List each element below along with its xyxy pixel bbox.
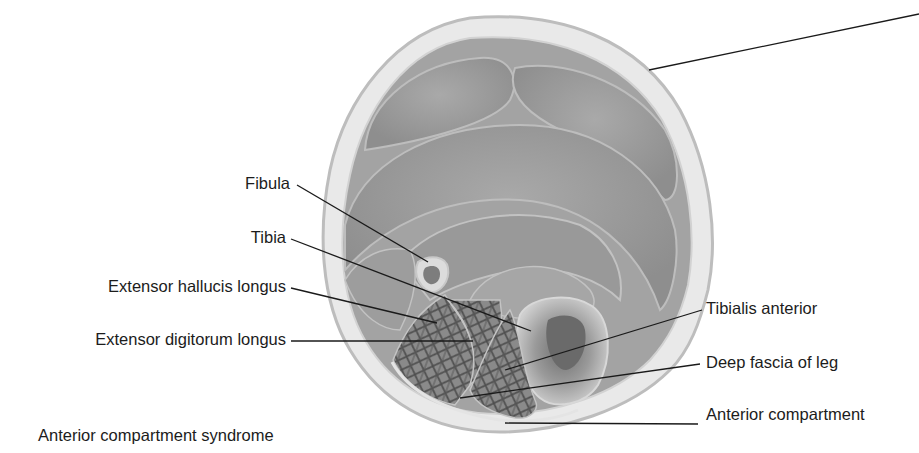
- leg-cross-section-illustration: [0, 0, 919, 453]
- leader-skin-unlabeled: [649, 14, 919, 70]
- label-tibialis-anterior: Tibialis anterior: [706, 298, 817, 318]
- figure-caption: Anterior compartment syndrome: [38, 425, 274, 445]
- anatomy-diagram: Fibula Tibia Extensor hallucis longus Ex…: [0, 0, 919, 453]
- label-deep-fascia-of-leg: Deep fascia of leg: [706, 352, 838, 372]
- label-extensor-hallucis-longus: Extensor hallucis longus: [20, 276, 286, 296]
- label-extensor-digitorum-longus: Extensor digitorum longus: [20, 329, 286, 349]
- label-fibula: Fibula: [180, 173, 290, 193]
- label-anterior-compartment: Anterior compartment: [706, 404, 865, 424]
- label-tibia: Tibia: [180, 227, 286, 247]
